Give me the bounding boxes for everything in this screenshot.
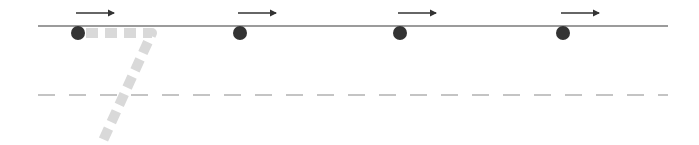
trail-stroke (86, 33, 152, 145)
particle-dot (393, 26, 407, 40)
particle-dot (233, 26, 247, 40)
diagram-canvas (0, 0, 699, 145)
particle-dot (71, 26, 85, 40)
particle-dot (556, 26, 570, 40)
dashed-trail-path (86, 33, 152, 145)
